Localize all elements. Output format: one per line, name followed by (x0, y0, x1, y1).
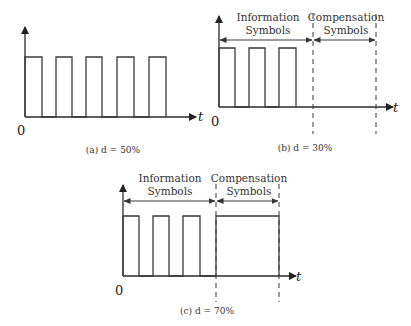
square-wave-70 (123, 216, 279, 276)
origin-label: 0 (211, 114, 219, 129)
square-wave-30 (219, 48, 296, 107)
info-label-line2: Symbols (246, 24, 291, 36)
caption-c: (c) d = 70% (180, 306, 234, 316)
origin-label: 0 (115, 283, 123, 298)
comp-label-line2: Symbols (324, 24, 369, 36)
comp-label-line1: Compensation (211, 172, 288, 184)
panel-a: t 0 (a) d = 50% (17, 27, 204, 155)
comp-label-line2: Symbols (227, 185, 272, 197)
info-label-line1: Information (138, 172, 201, 184)
x-axis-label: t (393, 100, 399, 115)
panel-c: Information Symbols Compensation Symbols… (115, 172, 302, 316)
square-wave-50 (25, 57, 166, 117)
panel-b: Information Symbols Compensation Symbols… (211, 11, 399, 153)
info-label-line1: Information (236, 11, 299, 23)
info-label-line2: Symbols (148, 185, 193, 197)
caption-a: (a) d = 50% (86, 145, 141, 155)
x-axis-label: t (198, 109, 204, 124)
caption-b: (b) d = 30% (278, 143, 333, 153)
duty-cycle-diagram: t 0 (a) d = 50% Information Symbols Comp… (0, 0, 411, 326)
comp-label-line1: Compensation (308, 11, 385, 23)
origin-label: 0 (17, 123, 25, 138)
x-axis-label: t (296, 269, 302, 284)
